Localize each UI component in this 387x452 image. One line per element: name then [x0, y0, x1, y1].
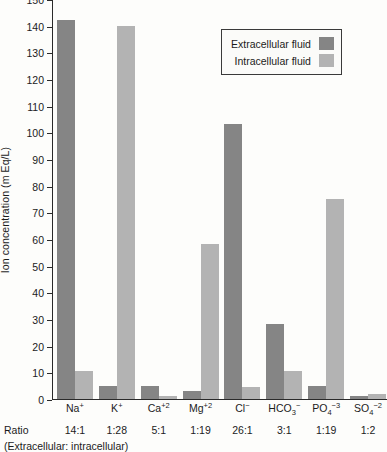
bar [75, 371, 93, 399]
legend-label-extracellular: Extracellular fluid [231, 38, 311, 50]
x-axis-label: SO4−2 [354, 402, 382, 414]
y-tick-label: 80 [32, 181, 44, 193]
x-axis-label: PO4−3 [312, 402, 340, 414]
x-axis-label: Ca+2 [148, 402, 170, 414]
legend-swatch-extracellular [319, 37, 334, 50]
bar-group [141, 0, 177, 399]
bar [368, 394, 386, 399]
y-tick-label: 40 [32, 287, 44, 299]
x-axis-label: HCO3− [268, 402, 300, 414]
x-axis-label: K+ [111, 402, 122, 414]
x-axis-label: Mg+2 [189, 402, 212, 414]
y-tick-label: 60 [32, 234, 44, 246]
x-axis-labels: Na+K+Ca+2Mg+2Cl−HCO3−PO4−3SO4−2 [52, 402, 387, 422]
y-tick-label: 100 [26, 127, 44, 139]
legend-swatch-intracellular [319, 54, 334, 67]
bar [308, 386, 326, 399]
bar [266, 324, 284, 399]
y-tick-label: 140 [26, 21, 44, 33]
y-tick-label: 110 [27, 101, 44, 113]
ratio-value: 14:1 [65, 424, 85, 436]
ratio-caption: (Extracellular: intracellular) [4, 440, 128, 452]
bar [224, 124, 242, 399]
ratio-value: 1:2 [361, 424, 376, 436]
ratio-value: 5:1 [151, 424, 166, 436]
bar-group [57, 0, 93, 399]
legend-item-extracellular: Extracellular fluid [231, 35, 334, 52]
x-axis-label: Cl− [235, 402, 249, 414]
ratio-row: Ratio 14:11:285:11:1926:13:11:191:2 [0, 424, 387, 440]
x-axis-label: Na+ [66, 402, 84, 414]
y-tick-label: 70 [32, 207, 44, 219]
bar [183, 391, 201, 399]
bar [117, 26, 135, 399]
bar-group [99, 0, 135, 399]
bar [242, 387, 260, 399]
bar [99, 386, 117, 399]
y-tick-label: 90 [32, 154, 44, 166]
bar [57, 20, 75, 399]
y-axis-title-text: Ion concentration (m Eq/L) [0, 130, 11, 290]
y-tick-label: 50 [32, 261, 44, 273]
bar-group [183, 0, 219, 399]
bar [201, 244, 219, 399]
y-tick-label: 150 [26, 0, 44, 6]
y-tick-label: 30 [32, 314, 44, 326]
ratio-value: 1:19 [190, 424, 210, 436]
ratio-value: 1:28 [107, 424, 127, 436]
ratio-value: 26:1 [232, 424, 252, 436]
y-tick-label: 0 [38, 394, 44, 406]
ratio-value: 1:19 [316, 424, 336, 436]
legend-item-intracellular: Intracellular fluid [231, 52, 334, 69]
bar [326, 199, 344, 399]
bar [159, 396, 177, 399]
legend-label-intracellular: Intracellular fluid [235, 55, 311, 67]
y-tick-label: 120 [26, 74, 44, 86]
ratio-value: 3:1 [277, 424, 292, 436]
ion-concentration-bar-chart: Ion concentration (m Eq/L) 0102030405060… [0, 0, 387, 452]
bar [141, 386, 159, 399]
y-tick-label: 20 [32, 341, 44, 353]
y-axis-title: Ion concentration (m Eq/L) [0, 0, 11, 130]
legend: Extracellular fluid Intracellular fluid [221, 29, 342, 75]
y-tick-label: 130 [26, 47, 44, 59]
ratio-row-title: Ratio [4, 424, 29, 436]
bar-group [350, 0, 386, 399]
bar [284, 371, 302, 399]
y-tick-label: 10 [32, 367, 44, 379]
y-tick-mark [47, 400, 52, 401]
bar [350, 396, 368, 399]
